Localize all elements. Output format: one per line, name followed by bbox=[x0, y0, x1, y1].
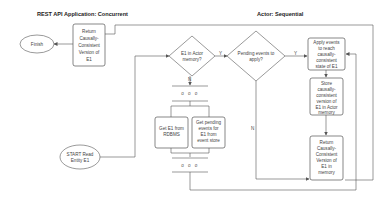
label-pending-no: N bbox=[251, 126, 254, 131]
label-memory-yes: Y bbox=[219, 51, 222, 56]
edge-fork-split bbox=[171, 101, 209, 117]
edge-pending-no bbox=[256, 81, 309, 179]
svg-text:Version of: Version of bbox=[316, 158, 337, 163]
svg-text:E1: E1 bbox=[86, 57, 92, 62]
svg-text:E1 in: E1 in bbox=[321, 164, 332, 169]
svg-text:Pending events to: Pending events to bbox=[238, 51, 275, 56]
svg-text:Causally-: Causally- bbox=[317, 146, 337, 151]
svg-text:version of: version of bbox=[317, 99, 338, 104]
svg-text:Causally-: Causally- bbox=[79, 36, 99, 41]
svg-text:Version of: Version of bbox=[79, 50, 100, 55]
svg-text:Consistent: Consistent bbox=[78, 43, 100, 48]
svg-text:Entity E1: Entity E1 bbox=[71, 158, 90, 163]
node-decision-memory: E1 in Actor memory? bbox=[169, 36, 215, 76]
node-return-right: Return Causally- Consistent Version of E… bbox=[310, 136, 343, 180]
svg-text:Get pending: Get pending bbox=[196, 120, 221, 125]
svg-text:memory?: memory? bbox=[182, 57, 202, 62]
svg-text:memory: memory bbox=[318, 110, 335, 115]
svg-text:causally-: causally- bbox=[317, 52, 336, 57]
svg-text:apply?: apply? bbox=[249, 57, 263, 62]
svg-text:Store: Store bbox=[321, 81, 332, 86]
node-start: START Read Entity E1 bbox=[60, 145, 100, 169]
lane-title-rest: REST API Application: Concurrent bbox=[37, 11, 128, 17]
svg-text:E1 from: E1 from bbox=[200, 132, 216, 137]
edge-actor-boundary bbox=[345, 25, 373, 180]
edge-return-left-top bbox=[105, 25, 373, 34]
svg-text:event store: event store bbox=[197, 138, 220, 143]
svg-text:Finish: Finish bbox=[31, 42, 44, 47]
node-decision-pending: Pending events to apply? bbox=[227, 31, 285, 81]
svg-text:memory: memory bbox=[318, 170, 335, 175]
svg-text:to reach: to reach bbox=[318, 46, 335, 51]
svg-text:Return: Return bbox=[320, 140, 334, 145]
node-finish: Finish bbox=[20, 35, 54, 53]
label-memory-no: N bbox=[188, 77, 191, 82]
svg-text:state of E1: state of E1 bbox=[316, 64, 338, 69]
lane-title-actor: Actor: Sequential bbox=[257, 11, 304, 17]
flowchart-canvas: REST API Application: Concurrent Actor: … bbox=[0, 0, 392, 201]
svg-text:consistent: consistent bbox=[316, 58, 337, 63]
svg-text:Return: Return bbox=[82, 29, 96, 34]
node-store: Store causally- consistent version of E1… bbox=[310, 78, 343, 115]
label-pending-yes: Y bbox=[294, 51, 297, 56]
svg-text:Get E1 from: Get E1 from bbox=[159, 126, 184, 131]
svg-text:causally-: causally- bbox=[317, 87, 336, 92]
svg-text:Apply events: Apply events bbox=[313, 40, 340, 45]
node-get-pending: Get pending events for E1 from event sto… bbox=[192, 117, 225, 148]
svg-text:E1 in Actor: E1 in Actor bbox=[181, 51, 204, 56]
fork-dots: o o o bbox=[181, 91, 199, 96]
join-dots: o o o bbox=[181, 163, 199, 168]
node-return-left: Return Causally- Consistent Version of E… bbox=[73, 24, 105, 66]
svg-text:consistent: consistent bbox=[316, 93, 337, 98]
node-get-rdbms: Get E1 from RDBMS bbox=[155, 117, 188, 148]
svg-text:START Read: START Read bbox=[67, 152, 94, 157]
node-apply-events: Apply events to reach causally- consiste… bbox=[308, 38, 345, 70]
svg-text:Consistent: Consistent bbox=[316, 152, 338, 157]
edge-join-merge bbox=[171, 148, 209, 157]
svg-text:events for: events for bbox=[198, 126, 219, 131]
svg-text:RDBMS: RDBMS bbox=[163, 132, 180, 137]
